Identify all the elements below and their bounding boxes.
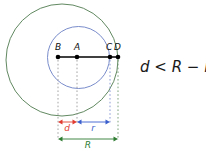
- measure-label-d: d: [64, 123, 70, 133]
- point-labels-group: B A C D: [55, 42, 121, 52]
- point-dot-D: [116, 55, 121, 60]
- measure-label-R: R: [85, 140, 91, 150]
- point-dot-B: [56, 55, 61, 60]
- large-circle-R: [6, 4, 118, 116]
- point-dot-A: [75, 55, 80, 60]
- point-label-D: D: [114, 42, 121, 52]
- point-label-C: C: [106, 42, 113, 52]
- measure-label-r: r: [91, 123, 96, 133]
- point-dot-C: [108, 55, 113, 60]
- geometry-figure: B A C D d r R d < R − r: [0, 0, 206, 151]
- point-label-B: B: [55, 42, 61, 52]
- inequality-expression: d < R − r: [140, 58, 206, 76]
- point-label-A: A: [73, 42, 80, 52]
- figure-canvas: B A C D d r R d < R − r: [0, 0, 206, 151]
- measurement-labels-group: d r R: [64, 123, 96, 150]
